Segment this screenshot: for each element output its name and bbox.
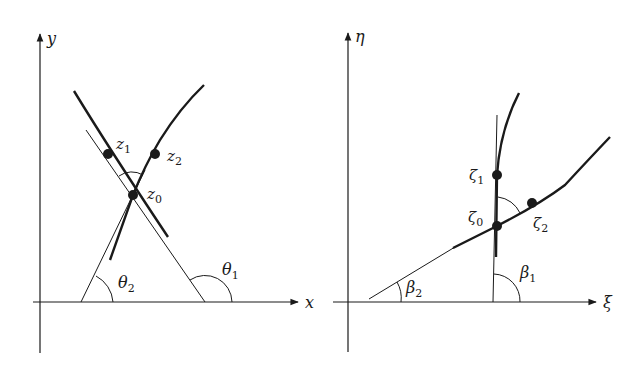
label-theta2: θ2 xyxy=(118,273,135,295)
point-z0 xyxy=(128,190,138,200)
y-axis-label: y xyxy=(46,29,57,48)
left-panel-z-plane: y x z1 z2 z0 θ2 θ1 xyxy=(33,29,314,353)
angle-arc-zeta0 xyxy=(498,197,520,213)
label-z0: z0 xyxy=(146,185,162,206)
x-axis-label: x xyxy=(305,293,314,312)
point-zeta1 xyxy=(492,170,502,180)
point-zeta2 xyxy=(527,198,537,208)
angle-arc-z0 xyxy=(119,172,143,176)
label-z1: z1 xyxy=(115,135,131,156)
point-zeta0 xyxy=(492,221,502,231)
label-beta1: β1 xyxy=(519,263,536,285)
eta-axis-label: η xyxy=(355,27,365,46)
label-theta1: θ1 xyxy=(222,260,239,282)
label-beta2: β2 xyxy=(405,278,422,300)
right-panel-zeta-plane: η ξ ζ1 ζ0 ζ2 β2 β1 xyxy=(333,27,613,352)
point-z1 xyxy=(103,149,113,159)
label-zeta0: ζ0 xyxy=(468,208,483,229)
angle-arc-beta1 xyxy=(494,274,520,302)
xi-axis-label: ξ xyxy=(603,293,613,312)
conformal-mapping-diagram: y x z1 z2 z0 θ2 θ1 η ξ ζ1 ζ0 ζ2 β2 β1 xyxy=(0,0,636,372)
curve-1 xyxy=(74,91,168,237)
point-z2 xyxy=(150,149,160,159)
label-z2: z2 xyxy=(166,147,182,168)
label-zeta2: ζ2 xyxy=(533,214,548,235)
label-zeta1: ζ1 xyxy=(469,166,484,187)
curve-zeta2 xyxy=(453,137,610,248)
angle-arc-theta2 xyxy=(96,276,113,302)
angle-arc-beta2 xyxy=(397,282,401,302)
